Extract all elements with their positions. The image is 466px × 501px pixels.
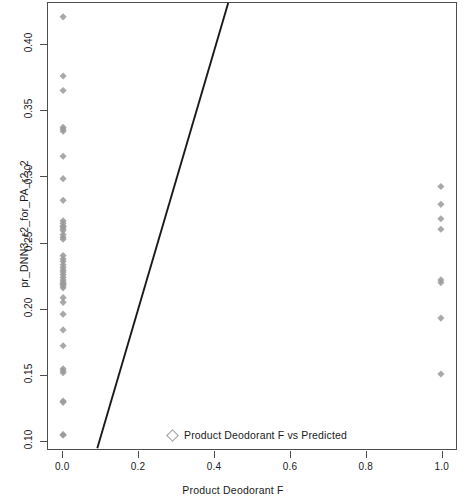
x-tick-label: 1.0: [422, 461, 462, 472]
plot-area: [47, 2, 457, 450]
x-tick-mark: [290, 451, 291, 458]
data-point: [60, 175, 67, 182]
data-point: [60, 72, 67, 79]
data-point: [60, 153, 67, 160]
legend-label: Product Deodorant F vs Predicted: [184, 429, 347, 441]
y-tick-label: 0.10: [0, 434, 38, 445]
data-point: [60, 13, 67, 20]
data-point: [60, 299, 67, 306]
data-point: [437, 183, 444, 190]
legend-diamond-icon: [166, 429, 179, 442]
y-tick-label-text: 0.15: [23, 363, 34, 382]
data-point: [60, 87, 67, 94]
data-point: [437, 226, 444, 233]
x-tick-label: 0.6: [270, 461, 310, 472]
data-point: [60, 311, 67, 318]
data-point: [60, 432, 67, 439]
y-tick-label: 0.40: [0, 37, 38, 48]
y-tick-mark: [40, 176, 47, 177]
x-tick-label: 0.8: [346, 461, 386, 472]
data-point: [60, 326, 67, 333]
plot-canvas: [48, 3, 456, 449]
x-tick-mark: [138, 451, 139, 458]
regression-line: [97, 3, 228, 448]
scatter-plot-figure: 0.100.150.200.250.300.350.40 0.00.20.40.…: [0, 0, 466, 501]
x-tick-mark: [442, 451, 443, 458]
regression-line-segment: [97, 3, 228, 448]
y-tick-mark: [40, 441, 47, 442]
y-tick-mark: [40, 110, 47, 111]
data-point: [437, 201, 444, 208]
data-point: [437, 315, 444, 322]
data-point: [437, 370, 444, 377]
data-point: [60, 399, 67, 406]
x-axis-title: Product Deodorant F: [0, 484, 466, 496]
data-point: [437, 215, 444, 222]
x-tick-mark: [62, 451, 63, 458]
y-tick-label-text: 0.40: [23, 33, 34, 52]
y-tick-mark: [40, 309, 47, 310]
y-tick-label: 0.15: [0, 368, 38, 379]
legend: Product Deodorant F vs Predicted: [168, 429, 347, 441]
data-point-group: [60, 13, 445, 439]
x-tick-label: 0.2: [118, 461, 158, 472]
data-point: [60, 342, 67, 349]
data-point: [60, 197, 67, 204]
y-tick-mark: [40, 44, 47, 45]
x-tick-mark: [366, 451, 367, 458]
x-tick-label: 0.0: [42, 461, 82, 472]
x-tick-label: 0.4: [194, 461, 234, 472]
x-tick-mark: [214, 451, 215, 458]
y-tick-label-text: 0.10: [23, 430, 34, 449]
y-axis-title: pr_DNN3_r2_for_PA_r2_2: [18, 104, 30, 344]
y-tick-mark: [40, 243, 47, 244]
y-tick-mark: [40, 375, 47, 376]
